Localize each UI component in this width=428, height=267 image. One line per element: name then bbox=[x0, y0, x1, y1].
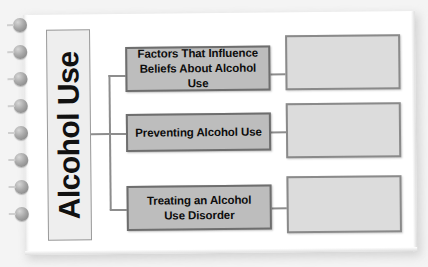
branch-box-1: Factors That Influence Beliefs About Alc… bbox=[125, 46, 270, 92]
connector-node-2-to-blank-2 bbox=[270, 131, 287, 133]
connector-arm-1 bbox=[108, 75, 126, 77]
notebook-page: Alcohol Use Factors That Influence Belie… bbox=[23, 11, 417, 255]
binding-rivet bbox=[14, 153, 28, 167]
answer-box-1[interactable] bbox=[285, 34, 401, 90]
binding-rivet bbox=[14, 99, 28, 113]
branch-box-1-line1: Factors That Influence bbox=[137, 47, 258, 60]
main-topic-box: Alcohol Use bbox=[46, 29, 92, 240]
binding-rivet bbox=[13, 45, 27, 59]
branch-box-1-line2: Beliefs About Alcohol Use bbox=[140, 62, 257, 89]
connector-node-1-to-blank-1 bbox=[269, 73, 286, 75]
main-topic-label: Alcohol Use bbox=[51, 51, 87, 219]
binding-rivet bbox=[14, 126, 28, 140]
branch-box-3-line2: Use Disorder bbox=[164, 208, 235, 221]
connector-node-3-to-blank-3 bbox=[271, 207, 288, 209]
connector-arm-2 bbox=[109, 133, 127, 135]
binding-rivet bbox=[15, 207, 29, 221]
branch-box-2: Preventing Alcohol Use bbox=[126, 113, 271, 152]
binding-rivet bbox=[13, 18, 27, 32]
spiral-binding bbox=[7, 18, 35, 240]
branch-box-3-line1: Treating an Alcohol bbox=[147, 193, 252, 206]
answer-box-2[interactable] bbox=[286, 102, 402, 158]
connector-title-stub bbox=[91, 133, 109, 135]
concept-map-diagram: Alcohol Use Factors That Influence Belie… bbox=[23, 11, 417, 255]
branch-box-1-label: Factors That Influence Beliefs About Alc… bbox=[133, 46, 262, 91]
worksheet-scene: Alcohol Use Factors That Influence Belie… bbox=[0, 0, 428, 267]
branch-box-2-line1: Preventing Alcohol Use bbox=[135, 125, 262, 138]
branch-box-3: Treating an Alcohol Use Disorder bbox=[127, 185, 272, 231]
connector-arm-3 bbox=[110, 209, 128, 211]
branch-box-3-label: Treating an Alcohol Use Disorder bbox=[147, 192, 252, 222]
binding-rivet bbox=[13, 72, 27, 86]
connector-spine bbox=[108, 75, 111, 210]
branch-box-2-label: Preventing Alcohol Use bbox=[135, 124, 262, 140]
answer-box-3[interactable] bbox=[286, 175, 402, 233]
binding-rivet bbox=[14, 180, 28, 194]
